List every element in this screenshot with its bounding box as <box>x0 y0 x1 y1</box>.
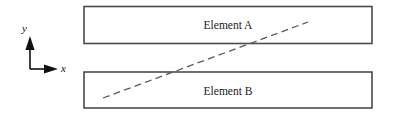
y-axis-label: y <box>21 22 27 34</box>
x-axis-label: x <box>60 62 66 74</box>
element-diagram: Element A Element B y x <box>0 0 394 116</box>
y-axis-arrowhead-icon <box>25 36 34 50</box>
x-axis-arrowhead-icon <box>44 64 58 73</box>
element-a-label: Element A <box>204 19 254 31</box>
diagram-canvas: Element A Element B y x <box>0 0 394 116</box>
element-b-label: Element B <box>204 85 253 97</box>
